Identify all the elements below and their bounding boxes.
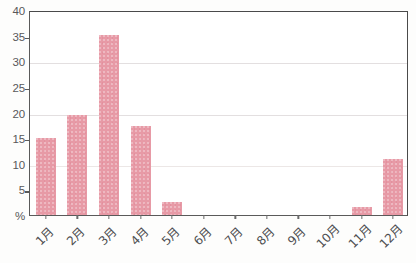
x-axis-label-slot: 7月 <box>219 218 251 263</box>
x-axis-tick-label: 11月 <box>343 220 374 251</box>
x-axis-tick-label: 8月 <box>252 223 277 248</box>
y-axis-tick-mark <box>25 38 30 39</box>
x-axis-label-slot: 10月 <box>313 218 345 263</box>
bar-slot <box>156 12 188 215</box>
bar[interactable] <box>162 202 182 215</box>
y-axis-tick-mark <box>25 191 30 192</box>
bar[interactable] <box>131 126 151 215</box>
x-axis-tick-label: 10月 <box>312 220 343 251</box>
bar[interactable] <box>67 115 87 215</box>
x-axis-label-slot: 3月 <box>92 218 124 263</box>
x-axis-tick-label: 12月 <box>375 220 406 251</box>
y-axis-tick-mark <box>25 89 30 90</box>
x-axis-tick-label: 3月 <box>94 223 119 248</box>
y-axis-tick-label: 35 <box>13 31 25 43</box>
bar-slot <box>377 12 409 215</box>
bar[interactable] <box>352 207 372 215</box>
x-axis-label-slot: 11月 <box>345 218 377 263</box>
x-axis-tick-label: 2月 <box>62 223 87 248</box>
bar-slot <box>346 12 378 215</box>
bar[interactable] <box>99 35 119 215</box>
x-axis-tick-label: 5月 <box>157 223 182 248</box>
x-axis-tick-label: 6月 <box>188 223 213 248</box>
y-axis-tick-label: 15 <box>13 133 25 145</box>
x-axis-tick-label: 7月 <box>220 223 245 248</box>
x-axis-tick-label: 9月 <box>283 223 308 248</box>
y-axis-tick-label: 5 <box>19 184 25 196</box>
y-axis-tick-label: 20 <box>13 108 25 120</box>
bar-slot <box>30 12 62 215</box>
bar-slot <box>125 12 157 215</box>
x-axis-label-slot: 4月 <box>124 218 156 263</box>
y-axis: %510152025303540 <box>0 0 29 216</box>
x-axis-tick-label: 4月 <box>125 223 150 248</box>
bar-slot <box>314 12 346 215</box>
y-axis-tick-label: % <box>15 210 25 222</box>
bar-slot <box>93 12 125 215</box>
bar[interactable] <box>36 138 56 215</box>
x-axis-label-slot: 6月 <box>187 218 219 263</box>
bar-slot <box>251 12 283 215</box>
bar[interactable] <box>383 159 403 215</box>
bar-slot <box>220 12 252 215</box>
bar-chart: %510152025303540 1月2月3月4月5月6月7月8月9月10月11… <box>0 0 416 263</box>
plot-area <box>29 11 408 216</box>
x-axis-label-slot: 2月 <box>61 218 93 263</box>
y-axis-tick-mark <box>25 140 30 141</box>
y-axis-tick-label: 10 <box>13 159 25 171</box>
y-axis-tick-label: 30 <box>13 56 25 68</box>
bar-slot <box>283 12 315 215</box>
bar-slot <box>188 12 220 215</box>
x-axis: 1月2月3月4月5月6月7月8月9月10月11月12月 <box>29 218 408 263</box>
x-axis-label-slot: 5月 <box>155 218 187 263</box>
x-axis-label-slot: 8月 <box>250 218 282 263</box>
x-axis-tick-label: 1月 <box>31 223 56 248</box>
y-axis-tick-label: 25 <box>13 82 25 94</box>
x-axis-label-slot: 9月 <box>282 218 314 263</box>
x-axis-label-slot: 12月 <box>376 218 408 263</box>
x-axis-label-slot: 1月 <box>29 218 61 263</box>
bars-layer <box>30 12 407 215</box>
y-axis-tick-label: 40 <box>13 5 25 17</box>
bar-slot <box>62 12 94 215</box>
